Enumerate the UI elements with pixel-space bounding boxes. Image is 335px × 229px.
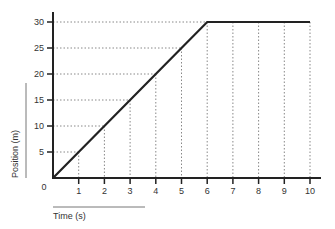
position-time-chart: 51015202530123456789100 Position (m) Tim… [0, 0, 335, 229]
x-tick-label: 7 [230, 186, 235, 196]
x-tick-label: 10 [305, 186, 315, 196]
y-tick-label: 20 [34, 69, 44, 79]
y-tick-label: 25 [34, 43, 44, 53]
x-tick-label: 9 [282, 186, 287, 196]
x-tick-label: 8 [256, 186, 261, 196]
tick-labels: 51015202530123456789100 [34, 17, 315, 196]
x-tick-label: 2 [102, 186, 107, 196]
y-tick-label: 30 [34, 17, 44, 27]
y-tick-label: 10 [34, 121, 44, 131]
axes [52, 12, 321, 179]
x-tick-label: 4 [153, 186, 158, 196]
x-tick-label: 1 [76, 186, 81, 196]
dotted-gridlines [53, 22, 310, 178]
x-axis-title: Time (s) [53, 211, 86, 221]
x-tick-label: 3 [128, 186, 133, 196]
y-axis-title: Position (m) [10, 130, 20, 178]
origin-label: 0 [41, 182, 46, 192]
x-tick-label: 5 [179, 186, 184, 196]
axis-ticks [47, 22, 310, 184]
y-tick-label: 15 [34, 95, 44, 105]
x-tick-label: 6 [205, 186, 210, 196]
y-tick-label: 5 [39, 147, 44, 157]
